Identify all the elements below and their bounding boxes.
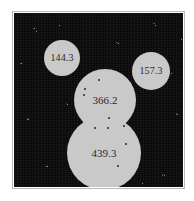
region-flux-label: 366.2: [92, 95, 117, 106]
region-flux-label: 157.3: [140, 66, 163, 76]
region-flux-label: 144.3: [51, 53, 74, 63]
background-star: [36, 31, 37, 32]
detected-source-marker: [117, 165, 119, 167]
background-star: [118, 43, 119, 44]
detected-source-marker: [84, 88, 86, 90]
background-star: [171, 73, 172, 74]
detected-source-marker: [108, 117, 110, 119]
detected-source-marker: [123, 125, 125, 127]
background-star: [67, 104, 68, 105]
detected-source-marker: [94, 127, 96, 129]
figure-container: 144.3157.3366.2439.3: [0, 0, 194, 201]
background-star: [47, 166, 48, 167]
detected-source-marker: [125, 143, 127, 145]
background-star: [28, 119, 29, 120]
sky-image-panel: 144.3157.3366.2439.3: [14, 13, 183, 187]
background-star: [164, 175, 165, 176]
detected-source-marker: [83, 94, 85, 96]
background-star: [142, 183, 143, 184]
region-flux-label: 439.3: [91, 148, 116, 159]
detected-source-marker: [107, 127, 109, 129]
background-star: [181, 39, 182, 40]
background-star: [59, 25, 60, 26]
detected-source-marker: [98, 79, 100, 81]
background-star: [21, 63, 22, 64]
background-star: [177, 114, 178, 115]
background-star: [155, 25, 156, 26]
